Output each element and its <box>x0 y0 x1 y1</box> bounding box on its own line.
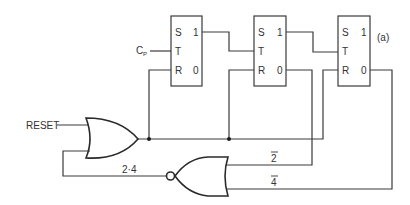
wire-ff2-r <box>229 70 254 139</box>
ff1-pin-r: R <box>175 65 182 76</box>
ff1-pin-q1: 1 <box>193 27 199 38</box>
circuit-diagram: S T R 1 0 S T R 1 0 S T R 1 0 (a) C P <box>0 0 410 205</box>
ff2-pin-q1: 1 <box>277 27 283 38</box>
ff3-pin-q1: 1 <box>361 27 367 38</box>
flip-flop-1: S T R 1 0 <box>171 16 202 86</box>
figure-label: (a) <box>377 32 389 43</box>
not2-text: 2 <box>271 153 277 164</box>
wire-ff2-q1-to-ff3-t <box>286 32 338 52</box>
nor-gate <box>175 157 228 196</box>
label-not4: 4 <box>271 176 278 188</box>
junction-dot-2 <box>227 137 231 141</box>
wire-ff1-q1-to-ff2-t <box>202 32 254 51</box>
ff1-pin-s: S <box>175 27 182 38</box>
ff2-pin-s: S <box>258 27 265 38</box>
wire-ff1-r <box>149 70 171 139</box>
ff2-pin-q0: 0 <box>277 65 283 76</box>
clock-subscript: P <box>143 51 147 57</box>
reset-input: RESET <box>26 120 90 131</box>
wire-not4 <box>226 70 392 189</box>
clock-input: C P <box>136 45 171 57</box>
ff2-pin-t: T <box>258 46 264 57</box>
ff3-pin-q0: 0 <box>361 65 367 76</box>
ff2-pin-r: R <box>258 65 265 76</box>
nor-inversion-bubble <box>167 172 175 180</box>
wire-reset-bus <box>138 70 338 139</box>
reset-label: RESET <box>26 120 59 131</box>
ff3-pin-r: R <box>342 65 349 76</box>
flip-flop-3: S T R 1 0 <box>338 16 370 86</box>
not4-text: 4 <box>271 177 277 188</box>
product-label: 2·4 <box>122 164 137 175</box>
junction-dot-1 <box>147 137 151 141</box>
flip-flop-2: S T R 1 0 <box>254 16 286 86</box>
ff3-pin-t: T <box>342 46 348 57</box>
ff3-pin-s: S <box>342 27 349 38</box>
label-not2: 2 <box>271 152 278 164</box>
ff1-pin-q0: 0 <box>193 65 199 76</box>
or-gate <box>86 118 138 158</box>
ff1-pin-t: T <box>175 46 181 57</box>
